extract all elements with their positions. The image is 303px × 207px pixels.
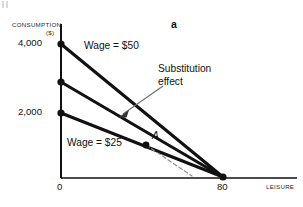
label-wage-25: Wage = $25 xyxy=(67,137,122,148)
y-tick-label-2000: 2,000 xyxy=(18,107,42,118)
marker-intercept-4000 xyxy=(57,40,64,47)
budget-line-compensated xyxy=(61,82,223,177)
y-axis-title-line1: CONSUMPTION xyxy=(12,22,61,29)
x-axis-title: LEISURE xyxy=(266,184,294,191)
label-point-a: A xyxy=(152,130,159,141)
marker-intercept-2000 xyxy=(57,109,64,116)
marker-intercept-compensated xyxy=(57,78,64,85)
label-wage-50: Wage = $50 xyxy=(84,40,139,51)
y-axis-title-line2: ($) xyxy=(46,30,54,37)
x-tick-label-80: 80 xyxy=(217,182,228,193)
marker-endpoint-80 xyxy=(219,173,226,180)
label-substitution-effect-line2: effect xyxy=(158,76,183,87)
panel-label: a xyxy=(171,19,177,31)
x-tick-label-origin: 0 xyxy=(57,182,62,193)
marker-point-a xyxy=(143,142,150,149)
label-substitution-effect-line1: Substitution xyxy=(158,63,211,74)
figure-panel-a: CONSUMPTION ($) 4,000 2,000 0 80 LEISURE… xyxy=(0,0,303,207)
y-tick-label-4000: 4,000 xyxy=(18,38,42,49)
